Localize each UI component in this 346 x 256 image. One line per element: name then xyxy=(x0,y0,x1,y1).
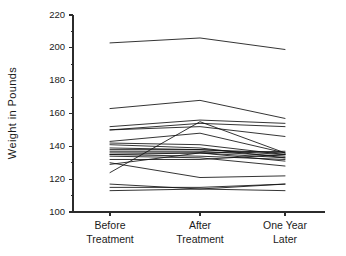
x-tick-label: Treatment xyxy=(176,233,224,245)
x-axis xyxy=(73,212,325,216)
y-tick-label: 100 xyxy=(49,206,65,217)
x-tick-label: Before xyxy=(95,219,126,231)
y-tick-label: 120 xyxy=(49,173,65,184)
x-tick-label: Treatment xyxy=(86,233,134,245)
series-group xyxy=(110,38,285,191)
series-line xyxy=(110,38,285,50)
y-axis-title: Weight in Pounds xyxy=(6,67,18,160)
weight-trajectory-chart: 100120140160180200220 BeforeTreatmentAft… xyxy=(0,0,346,256)
series-line xyxy=(110,100,285,118)
x-tick-label-group: BeforeTreatmentAfterTreatmentOne YearLat… xyxy=(86,219,307,245)
y-tick-label: 140 xyxy=(49,140,65,151)
x-tick-group xyxy=(110,212,285,216)
y-tick-group: 100120140160180200220 xyxy=(49,9,73,217)
y-tick-label: 220 xyxy=(49,9,65,20)
y-tick-label: 160 xyxy=(49,107,65,118)
series-line xyxy=(110,189,285,191)
y-tick-label: 180 xyxy=(49,74,65,85)
y-axis: 100120140160180200220 xyxy=(49,9,73,217)
x-tick-label: After xyxy=(189,219,212,231)
chart-container: 100120140160180200220 BeforeTreatmentAft… xyxy=(0,0,346,256)
x-tick-label: Later xyxy=(273,233,297,245)
series-line xyxy=(110,163,285,178)
x-tick-label: One Year xyxy=(263,219,307,231)
y-tick-label: 200 xyxy=(49,41,65,52)
